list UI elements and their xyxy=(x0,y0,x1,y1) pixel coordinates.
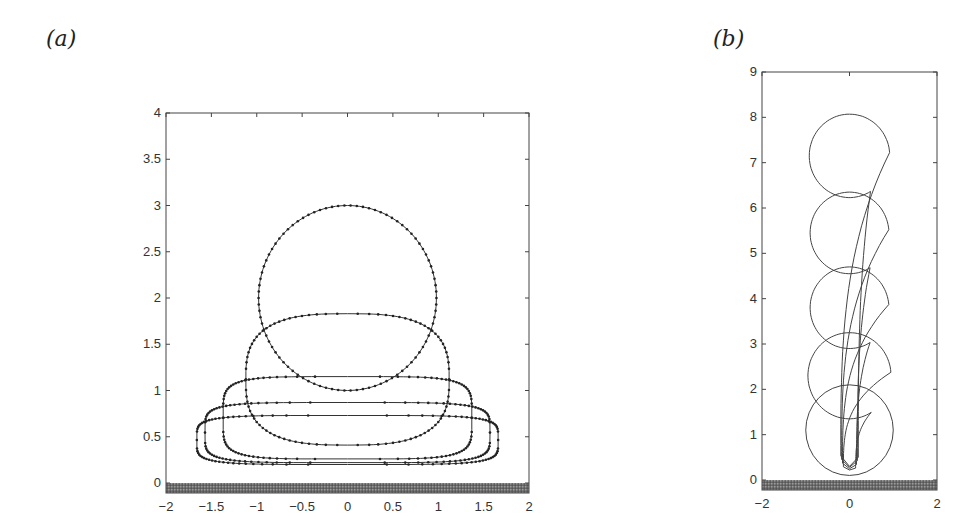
drop-shape-curve xyxy=(197,416,498,465)
y-tick-label: 3.5 xyxy=(143,151,161,166)
y-tick-label: 1.5 xyxy=(143,336,161,351)
chart-panel-a: 00.511.522.533.54−2−1.5−1−0.500.511.52 xyxy=(143,105,533,514)
x-tick-label: −1 xyxy=(249,499,264,514)
x-tick-label: −2 xyxy=(755,496,770,511)
x-tick-label: 0 xyxy=(344,499,351,514)
axes-frame xyxy=(166,113,529,493)
y-tick-label: 2.5 xyxy=(143,244,161,259)
drop-curve xyxy=(808,333,891,470)
drop-shape-curve xyxy=(205,403,490,463)
drop-shape-curve xyxy=(223,377,472,459)
x-tick-label: 2 xyxy=(933,496,940,511)
y-tick-label: 1 xyxy=(154,383,161,398)
x-tick-label: 0.5 xyxy=(384,499,402,514)
y-tick-label: 4 xyxy=(750,291,757,306)
y-tick-label: 3 xyxy=(750,336,757,351)
y-tick-label: 9 xyxy=(750,64,757,79)
x-tick-label: 2 xyxy=(525,499,532,514)
y-tick-label: 2 xyxy=(154,290,161,305)
drop-shape-curve xyxy=(246,314,449,445)
ground-wall xyxy=(166,483,529,493)
y-tick-label: 0 xyxy=(750,472,757,487)
drop-curve xyxy=(810,267,889,469)
y-tick-label: 6 xyxy=(750,200,757,215)
drop-curve xyxy=(809,114,889,466)
figure-canvas: 00.511.522.533.54−2−1.5−1−0.500.511.52 0… xyxy=(0,0,980,530)
x-tick-label: 0 xyxy=(846,496,853,511)
drop-shape-curve xyxy=(259,206,437,391)
y-tick-label: 0.5 xyxy=(143,429,161,444)
y-tick-label: 1 xyxy=(750,427,757,442)
x-tick-label: 1 xyxy=(435,499,442,514)
x-tick-label: −0.5 xyxy=(289,499,315,514)
x-tick-label: −2 xyxy=(159,499,174,514)
y-tick-label: 8 xyxy=(750,109,757,124)
y-tick-label: 7 xyxy=(750,155,757,170)
x-tick-label: −1.5 xyxy=(199,499,225,514)
y-tick-label: 4 xyxy=(154,105,161,120)
drop-curve xyxy=(806,385,894,476)
x-tick-label: 1.5 xyxy=(475,499,493,514)
chart-panel-b: 0123456789−202 xyxy=(750,64,941,511)
y-tick-label: 0 xyxy=(154,475,161,490)
y-tick-label: 5 xyxy=(750,245,757,260)
y-tick-label: 3 xyxy=(154,198,161,213)
ground-wall xyxy=(762,480,937,490)
drop-curve xyxy=(810,192,889,467)
y-tick-label: 2 xyxy=(750,381,757,396)
